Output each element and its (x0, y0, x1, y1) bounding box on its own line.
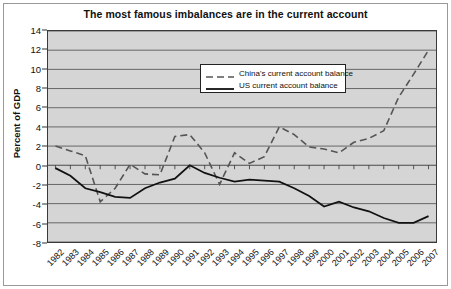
legend-swatch-solid (205, 80, 235, 90)
legend-label-china: China's current account balance (239, 69, 353, 78)
x-axis-ticks: 1982198319841985198619871988198919901991… (0, 0, 451, 289)
legend-item-us: US current account balance (205, 79, 345, 91)
chart-container: The most famous imbalances are in the cu… (0, 0, 451, 289)
legend-swatch-dashed (205, 68, 235, 78)
legend-item-china: China's current account balance (205, 67, 345, 79)
legend-label-us: US current account balance (239, 81, 338, 90)
chart-legend: China's current account balance US curre… (200, 64, 346, 93)
